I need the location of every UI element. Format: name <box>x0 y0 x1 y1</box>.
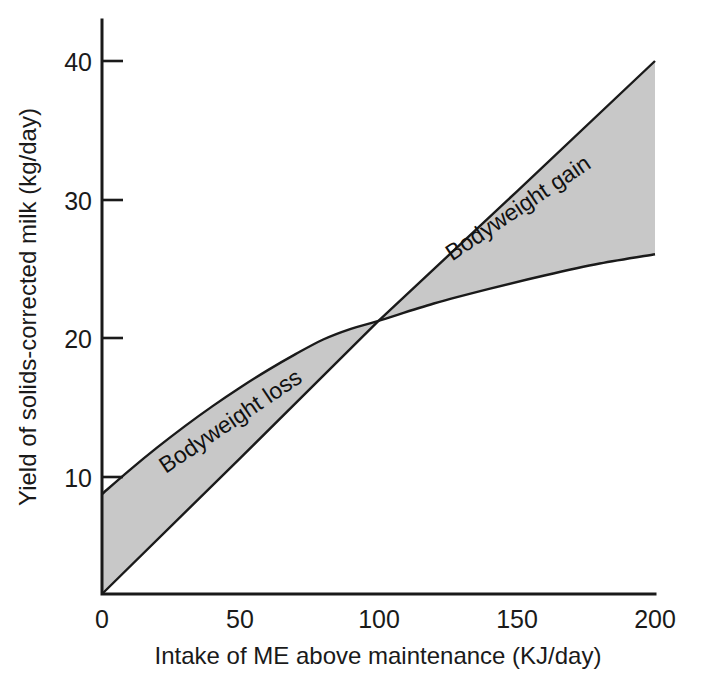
x-tick-label-150: 150 <box>496 605 538 633</box>
x-tick-label-200: 200 <box>634 605 676 633</box>
y-tick-label-10: 10 <box>64 464 92 492</box>
y-tick-labels: 40 30 20 10 <box>64 48 92 492</box>
y-tick-label-40: 40 <box>64 48 92 76</box>
chart-canvas: 40 30 20 10 0 50 100 150 200 Intake of M… <box>0 0 712 679</box>
y-tick-label-20: 20 <box>64 325 92 353</box>
x-tick-label-50: 50 <box>226 605 254 633</box>
x-tick-label-100: 100 <box>358 605 400 633</box>
x-tick-label-0: 0 <box>95 605 109 633</box>
y-tick-marks <box>102 61 123 477</box>
y-tick-label-30: 30 <box>64 187 92 215</box>
x-axis-title: Intake of ME above maintenance (KJ/day) <box>155 642 602 669</box>
x-tick-labels: 0 50 100 150 200 <box>95 605 676 633</box>
bodyweight-band-group <box>102 61 655 594</box>
linear-response-line <box>102 61 655 594</box>
y-axis-title: Yield of solids-corrected milk (kg/day) <box>14 108 41 506</box>
chart-figure: 40 30 20 10 0 50 100 150 200 Intake of M… <box>0 0 712 679</box>
